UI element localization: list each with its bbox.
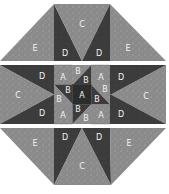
- label-e-bottom-left: E: [32, 139, 37, 148]
- label-a-bottom-right: A: [98, 111, 104, 120]
- label-b-bottom-light: B: [83, 114, 89, 123]
- label-b-right-dark: B: [94, 95, 100, 104]
- piece-e-bottom-right: [110, 128, 166, 185]
- label-c-left: C: [15, 91, 21, 100]
- label-d-right-upper: D: [118, 73, 124, 82]
- label-c-top: C: [79, 20, 85, 29]
- label-d-left-lower: D: [39, 109, 45, 118]
- label-a-bottom-left: A: [60, 111, 66, 120]
- label-e-bottom-right: E: [126, 139, 131, 148]
- label-e-top-left: E: [32, 44, 37, 53]
- top-row: E D C D E: [0, 4, 166, 61]
- label-d-bottom-right: D: [96, 133, 102, 142]
- label-d-top-right: D: [96, 49, 102, 58]
- label-b-left-light: B: [56, 95, 62, 104]
- label-b-left-dark: B: [65, 86, 71, 95]
- label-d-top-left: D: [62, 49, 68, 58]
- label-c-bottom: C: [79, 162, 85, 171]
- middle-row: C D D A B B A B B A B B A B B A: [0, 65, 166, 124]
- label-e-top-right: E: [125, 44, 130, 53]
- piece-e-top-left: [0, 4, 54, 61]
- label-b-top-dark: B: [83, 76, 89, 85]
- label-d-right-lower: D: [118, 110, 124, 119]
- label-b-top-light: B: [75, 67, 81, 76]
- label-d-left-upper: D: [39, 72, 45, 81]
- label-a-top-right: A: [98, 73, 104, 82]
- label-a-top-left: A: [60, 73, 66, 82]
- label-a-center: A: [79, 91, 85, 100]
- bottom-row: E D C D E: [0, 128, 166, 185]
- label-b-bottom-dark: B: [75, 105, 81, 114]
- label-c-right: C: [143, 92, 149, 101]
- label-d-bottom-left: D: [62, 133, 68, 142]
- piece-e-bottom-left: [0, 128, 54, 185]
- quilt-block-diagram: E D C D E C D D A B B A B B: [0, 0, 169, 194]
- label-b-right-light: B: [102, 85, 108, 94]
- piece-e-top-right: [110, 4, 166, 61]
